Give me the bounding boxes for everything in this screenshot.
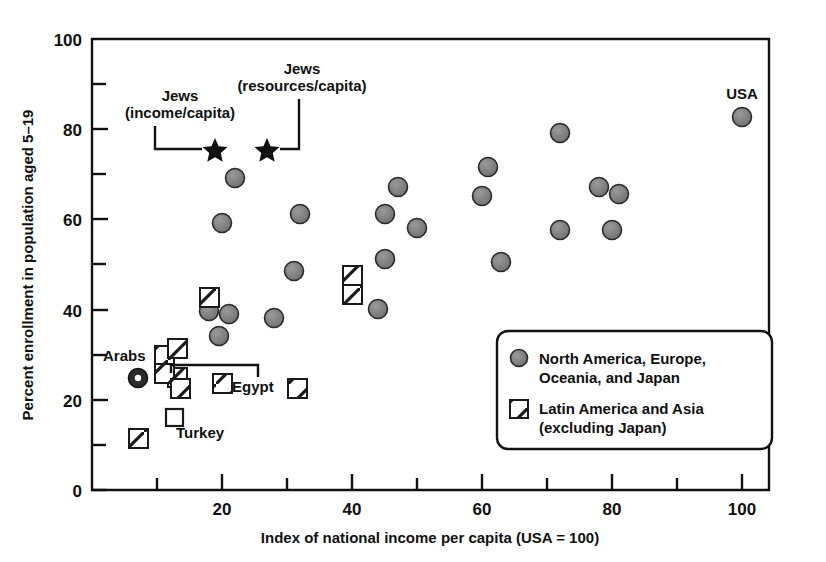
data-point <box>369 300 388 319</box>
data-point <box>210 327 229 346</box>
x-axis-title: Index of national income per capita (USA… <box>261 529 599 546</box>
y-tick-label: 40 <box>63 302 82 321</box>
legend-label-line-2: Oceania, and Japan <box>539 369 680 386</box>
data-point <box>376 205 395 224</box>
legend-label-line-1: North America, Europe, <box>539 350 706 367</box>
data-point <box>610 185 629 204</box>
legend-marker-hatched-square <box>510 400 528 418</box>
scatter-chart: 0 20 40 60 80 100 20 40 60 80 100 Index … <box>0 0 826 562</box>
data-point <box>226 169 245 188</box>
chart-root: 0 20 40 60 80 100 20 40 60 80 100 Index … <box>0 0 826 562</box>
annotation-line-1: Jews <box>284 60 321 77</box>
data-point <box>213 374 232 393</box>
data-point <box>285 262 304 281</box>
data-point-usa <box>733 108 752 127</box>
data-point <box>590 178 609 197</box>
data-point <box>213 214 232 233</box>
canvas-background <box>0 0 826 562</box>
x-tick-label: 60 <box>473 500 492 519</box>
annotation-arabs: Arabs <box>103 347 146 364</box>
data-point <box>551 124 570 143</box>
y-tick-label: 100 <box>54 31 82 50</box>
annotation-line-2: (income/capita) <box>125 104 235 121</box>
data-point <box>220 305 239 324</box>
data-point <box>200 288 219 307</box>
annotation-line-2: (resources/capita) <box>237 77 366 94</box>
y-axis-title: Percent enrollment in population aged 5–… <box>19 110 36 421</box>
data-point <box>171 379 190 398</box>
annotation-egypt-label: Egypt <box>232 378 274 395</box>
data-point <box>603 221 622 240</box>
annotation-line-1: Jews <box>162 87 199 104</box>
data-point <box>288 379 307 398</box>
data-point <box>343 266 362 285</box>
y-tick-label: 0 <box>73 482 82 501</box>
data-point <box>168 339 187 358</box>
data-point <box>408 219 427 238</box>
data-point <box>129 429 148 448</box>
legend-marker-filled-circle <box>511 350 528 367</box>
legend-label-line-1: Latin America and Asia <box>539 400 704 417</box>
y-tick-label: 80 <box>63 121 82 140</box>
data-point <box>473 187 492 206</box>
data-point-arabs <box>129 369 148 388</box>
data-point <box>265 309 284 328</box>
data-point <box>479 158 498 177</box>
legend: North America, Europe, Oceania, and Japa… <box>497 331 772 449</box>
data-point <box>492 253 511 272</box>
data-point <box>376 250 395 269</box>
y-tick-label: 60 <box>63 211 82 230</box>
x-tick-label: 100 <box>728 500 756 519</box>
legend-label-line-2: (excluding Japan) <box>539 419 667 436</box>
annotation-turkey: Turkey <box>176 424 225 441</box>
data-point <box>389 178 408 197</box>
x-tick-label: 80 <box>603 500 622 519</box>
annotation-usa: USA <box>726 85 758 102</box>
data-point <box>551 221 570 240</box>
data-point <box>291 205 310 224</box>
x-tick-label: 20 <box>213 500 232 519</box>
y-tick-label: 20 <box>63 392 82 411</box>
data-point <box>343 285 362 304</box>
x-tick-label: 40 <box>343 500 362 519</box>
